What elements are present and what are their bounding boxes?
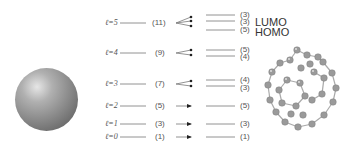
split-l1: (3) [240,120,250,128]
level-label-l4: ℓ=4 [105,49,118,57]
split-l5-c: (5) [240,26,250,34]
level-label-l3: ℓ=3 [105,80,118,88]
level-diagram-lines [0,0,358,150]
split-l0: (1) [240,133,250,141]
split-l3-b: (3) [240,84,250,92]
fullerene-molecule [265,47,340,131]
level-label-l1: ℓ=1 [105,120,118,128]
level-label-l2: ℓ=2 [105,102,118,110]
degeneracy-l5: (11) [152,19,166,27]
split-l2: (5) [240,102,250,110]
level-label-l5: ℓ=5 [105,19,118,27]
degeneracy-l0: (1) [155,133,165,141]
level-label-l0: ℓ=0 [105,133,118,141]
degeneracy-l4: (9) [155,49,165,57]
degeneracy-l3: (7) [155,80,165,88]
degeneracy-l2: (5) [155,102,165,110]
homo-label: HOMO [255,27,289,38]
split-l4-b: (4) [240,53,250,61]
degeneracy-l1: (3) [155,120,165,128]
